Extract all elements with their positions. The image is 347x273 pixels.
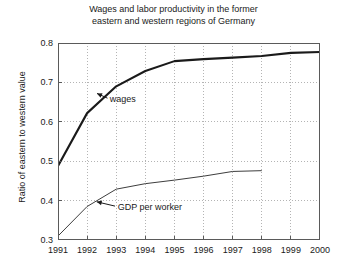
chart-title: Wages and labor productivity in the form… <box>0 4 347 27</box>
y-tick-label: 0.6 <box>13 117 53 127</box>
plot-frame <box>58 43 320 240</box>
y-tick-label: 0.7 <box>13 77 53 87</box>
plot-area: wagesGDP per worker <box>58 43 320 240</box>
y-tick-label: 0.4 <box>13 196 53 206</box>
y-tick-label: 0.3 <box>13 235 53 245</box>
series-annotation-label: wages <box>110 94 136 104</box>
series-annotation-label: GDP per worker <box>118 202 182 212</box>
x-tick-label: 2000 <box>300 245 340 255</box>
y-tick-label: 0.8 <box>13 38 53 48</box>
y-tick-label: 0.5 <box>13 156 53 166</box>
chart-figure: Wages and labor productivity in the form… <box>0 0 347 273</box>
